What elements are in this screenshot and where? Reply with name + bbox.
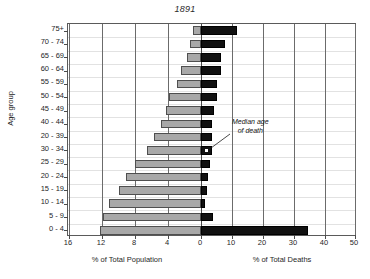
vertical-gridline xyxy=(102,24,103,235)
y-axis-tick-label: 55 - 59 xyxy=(6,78,64,86)
y-axis-tick xyxy=(64,111,68,112)
population-bar xyxy=(190,40,201,49)
deaths-bar xyxy=(201,53,221,62)
y-axis-tick xyxy=(64,150,68,151)
population-bar xyxy=(177,80,201,89)
deaths-bar xyxy=(201,26,237,35)
population-bar xyxy=(154,133,201,142)
vertical-gridline xyxy=(325,24,326,235)
annotation-median-age-of-death: Median age of death xyxy=(232,118,269,135)
annotation-line-2: of death xyxy=(232,127,269,136)
x-axis-tick-label: 50 xyxy=(342,238,366,247)
y-axis-tick xyxy=(64,84,68,85)
population-bar xyxy=(103,213,201,222)
y-axis-tick-label: 5 - 9 xyxy=(6,212,64,220)
horizontal-gridline xyxy=(68,37,355,38)
y-axis-tick-label: 30 - 34 xyxy=(6,145,64,153)
deaths-bar xyxy=(201,93,217,102)
deaths-bar xyxy=(201,106,214,115)
deaths-bar xyxy=(201,186,207,195)
x-axis-caption-deaths: % of Total Deaths xyxy=(222,255,342,264)
population-bar xyxy=(126,173,201,182)
population-pyramid-chart: 1891 Age group 75+70 - 7465 - 6960 - 645… xyxy=(0,0,370,279)
deaths-bar xyxy=(201,213,213,222)
population-bar xyxy=(109,199,201,208)
y-axis-tick-label: 40 - 44 xyxy=(6,118,64,126)
horizontal-gridline xyxy=(68,170,355,171)
population-bar xyxy=(169,93,201,102)
y-axis-tick xyxy=(64,217,68,218)
x-axis-tick-label: 0 xyxy=(188,238,212,247)
deaths-bar xyxy=(201,80,217,89)
y-axis-tick xyxy=(64,31,68,32)
y-axis-tick-label: 75+ xyxy=(6,25,64,33)
population-bar xyxy=(147,146,201,155)
x-axis-tick-label: 40 xyxy=(312,238,336,247)
y-axis-tick-label: 10 - 14 xyxy=(6,198,64,206)
horizontal-gridline xyxy=(68,184,355,185)
vertical-gridline xyxy=(355,24,356,235)
horizontal-gridline xyxy=(68,104,355,105)
y-axis-tick-label: 20 - 39 xyxy=(6,132,64,140)
horizontal-gridline xyxy=(68,77,355,78)
y-axis-tick-label: 50 - 54 xyxy=(6,92,64,100)
population-bar xyxy=(161,120,201,129)
horizontal-gridline xyxy=(68,117,355,118)
x-axis-tick-label: 8 xyxy=(122,238,146,247)
y-axis-tick-label: 0 - 4 xyxy=(6,225,64,233)
y-axis-tick-label: 45 - 49 xyxy=(6,105,64,113)
x-axis-tick-labels: 16128401020304050 xyxy=(0,238,370,250)
x-axis-caption-population: % of Total Population xyxy=(62,255,192,264)
y-axis-tick xyxy=(64,177,68,178)
x-axis-tick-label: 12 xyxy=(89,238,113,247)
chart-title: 1891 xyxy=(0,4,370,14)
x-axis-tick-label: 10 xyxy=(219,238,243,247)
horizontal-gridline xyxy=(68,224,355,225)
deaths-bar xyxy=(201,66,221,75)
y-axis-tick-label: 70 - 74 xyxy=(6,38,64,46)
horizontal-gridline xyxy=(68,131,355,132)
horizontal-gridline xyxy=(68,51,355,52)
plot-area xyxy=(67,23,356,236)
y-axis-tick xyxy=(64,230,68,231)
horizontal-gridline xyxy=(68,91,355,92)
population-bar xyxy=(119,186,202,195)
horizontal-gridline xyxy=(68,197,355,198)
annotation-line-1: Median age xyxy=(232,118,269,127)
y-axis-tick xyxy=(64,164,68,165)
y-axis-tick-label: 20 - 24 xyxy=(6,172,64,180)
deaths-bar xyxy=(201,133,212,142)
population-bar xyxy=(187,53,201,62)
x-axis-tick-label: 20 xyxy=(250,238,274,247)
x-axis-tick-label: 16 xyxy=(56,238,80,247)
y-axis-tick-label: 25 - 29 xyxy=(6,158,64,166)
y-axis-tick-label: 60 - 64 xyxy=(6,65,64,73)
deaths-bar xyxy=(201,173,208,182)
population-bar xyxy=(193,26,201,35)
y-axis-tick xyxy=(64,44,68,45)
y-axis-tick xyxy=(64,204,68,205)
y-axis-tick xyxy=(64,137,68,138)
median-age-of-death-marker xyxy=(205,149,208,152)
horizontal-gridline xyxy=(68,144,355,145)
y-axis-tick-label: 65 - 69 xyxy=(6,52,64,60)
x-axis-tick-label: 30 xyxy=(281,238,305,247)
population-bar xyxy=(100,226,201,235)
horizontal-gridline xyxy=(68,157,355,158)
vertical-gridline xyxy=(294,24,295,235)
vertical-gridline xyxy=(69,24,70,235)
y-axis-tick xyxy=(64,124,68,125)
population-bar xyxy=(166,106,201,115)
population-bar xyxy=(135,160,201,169)
deaths-bar xyxy=(201,40,225,49)
y-axis-tick-labels: 75+70 - 7465 - 6960 - 6455 - 5950 - 5445… xyxy=(0,23,64,236)
deaths-bar xyxy=(201,120,212,129)
horizontal-gridline xyxy=(68,64,355,65)
y-axis-tick xyxy=(64,71,68,72)
deaths-bar xyxy=(201,226,308,235)
horizontal-gridline xyxy=(68,210,355,211)
x-axis-tick-label: 4 xyxy=(155,238,179,247)
y-axis-tick xyxy=(64,97,68,98)
deaths-bar xyxy=(201,199,205,208)
population-bar xyxy=(181,66,201,75)
